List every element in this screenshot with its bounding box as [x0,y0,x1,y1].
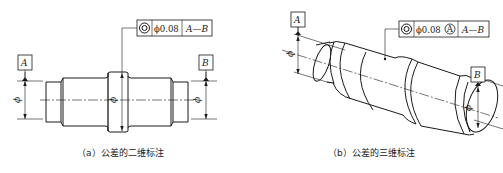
svg-text:A: A [446,24,454,34]
feature-control-frame-a: ϕ0.08 A—B [137,20,212,36]
svg-text:A: A [293,15,301,25]
svg-text:B: B [201,58,209,68]
datum-box-b-3d: B [471,67,485,82]
figure-b-3d-drawing: ϕ A ϕ B [282,12,503,136]
svg-text:B: B [473,70,481,80]
caption-b: （b）公差的三维标注 [328,146,415,159]
tolerance-value-b: ϕ0.08 [416,25,441,35]
datum-b-dimension: ϕ [191,72,217,119]
datum-box-b: B [199,55,213,77]
dim-symbol-collar: ϕ [108,97,118,103]
shaft-3d-outline [309,42,503,137]
leader-line-b [385,29,399,58]
figure-a-2d-drawing: ϕ A ϕ B ϕ [12,20,217,132]
caption-a: （a）公差的二维标注 [77,146,164,159]
tolerance-value-a: ϕ0.08 [154,24,179,34]
svg-text:A: A [20,58,28,68]
dim-symbol-b: ϕ [192,97,202,103]
datum-a-dimension-3d: ϕ [285,26,345,83]
datum-a-dimension: ϕ [12,72,43,119]
collar-dimension: ϕ [108,73,124,131]
datum-reference-a: A—B [185,24,208,34]
dim-symbol-a-3d: ϕ [285,51,295,57]
datum-box-a: A [18,55,32,77]
leader-line-a [122,28,137,73]
datum-reference-b: A—B [461,25,484,35]
diagram-canvas: ϕ A ϕ B ϕ [0,0,503,173]
datum-box-a-3d: A [291,12,305,31]
dim-symbol-b-3d: ϕ [463,105,473,111]
dim-symbol-a: ϕ [12,97,22,103]
feature-control-frame-b: ϕ0.08 A A—B [399,21,489,37]
